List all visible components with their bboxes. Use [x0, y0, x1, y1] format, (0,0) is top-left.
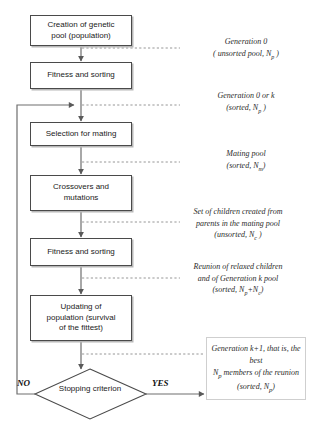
output-box-generation-k-plus-1[interactable]: Generation k+1, that is, the best Np mem…	[206, 337, 306, 400]
annotation-3-line2-post: )	[257, 230, 262, 239]
annotation-generation-0-or-k: Generation 0 or k (sorted, Np )	[184, 90, 308, 115]
node-crossover-line2: mutations	[53, 193, 109, 204]
decision-no-label: NO	[17, 378, 30, 388]
annotation-0-line2-pre: ( unsorted pool, N	[213, 49, 271, 58]
node-fitness2-line1: Fitness and sorting	[47, 247, 115, 258]
annotation-reunion: Reunion of relaxed children and of Gener…	[166, 261, 310, 297]
node-fitness-and-sorting-1[interactable]: Fitness and sorting	[30, 62, 132, 89]
node-creation-of-genetic-pool[interactable]: Creation of genetic pool (population)	[30, 15, 132, 46]
annotation-1-line2-post: )	[261, 103, 266, 112]
node-selection-for-mating[interactable]: Selection for mating	[30, 122, 132, 146]
decision-line1: Stopping	[59, 384, 91, 393]
annotation-0-line1: Generation 0	[225, 37, 267, 46]
annotation-4-line1: and of Generation k pool	[198, 274, 278, 283]
decision-label-text[interactable]: Stopping criterion	[55, 383, 125, 394]
annotation-4-line2-pre: (sorted, N	[212, 285, 244, 294]
annotation-generation-0-unsorted: Generation 0 ( unsorted pool, Np )	[184, 36, 308, 61]
node-updating-of-population[interactable]: Updating of population (survival of the …	[30, 295, 132, 341]
node-updating-line1: Updating of	[47, 302, 116, 313]
decision-yes-label: YES	[152, 378, 169, 388]
node-crossovers-and-mutations[interactable]: Crossovers and mutations	[30, 175, 132, 211]
annotation-mating-pool: Mating pool (sorted, Nm)	[184, 148, 308, 173]
annotation-2-line2-post: )	[263, 161, 266, 170]
decision-line2: criterion	[93, 384, 121, 393]
annotation-4-line2-post: +N	[247, 285, 258, 294]
annotation-2-line1: Mating pool	[226, 149, 265, 158]
output-line2-post: members of the reunion	[222, 368, 299, 377]
annotation-1-line2-pre: (sorted, N	[226, 103, 258, 112]
node-fitness1-line1: Fitness and sorting	[47, 70, 115, 81]
node-creation-line1: Creation of genetic	[47, 20, 114, 31]
annotation-3-line1: parents in the mating pool	[196, 219, 280, 228]
output-line3-post: )	[272, 382, 275, 391]
output-line3-pre: (sorted, N	[237, 382, 269, 391]
annotation-4-line0: Reunion of relaxed children	[194, 262, 283, 271]
node-updating-line2: population (survival	[47, 313, 116, 324]
node-selection-line1: Selection for mating	[46, 129, 117, 140]
annotation-set-of-children: Set of children created from parents in …	[166, 206, 310, 242]
flowchart-canvas: Creation of genetic pool (population) Fi…	[0, 0, 312, 424]
output-line1: Generation k+1, that is, the best	[212, 344, 301, 365]
node-crossover-line1: Crossovers and	[53, 182, 109, 193]
node-creation-line2: pool (population)	[47, 31, 114, 42]
node-updating-line3: of the fittest)	[47, 323, 116, 334]
node-fitness-and-sorting-2[interactable]: Fitness and sorting	[30, 238, 132, 266]
annotation-3-line0: Set of children created from	[194, 207, 283, 216]
annotation-3-line2-pre: (unsorted, N	[214, 230, 254, 239]
annotation-1-line1: Generation 0 or k	[217, 91, 274, 100]
annotation-2-line2-pre: (sorted, N	[226, 161, 258, 170]
annotation-4-line2-post2: )	[261, 285, 264, 294]
annotation-0-line2-post: )	[274, 49, 279, 58]
